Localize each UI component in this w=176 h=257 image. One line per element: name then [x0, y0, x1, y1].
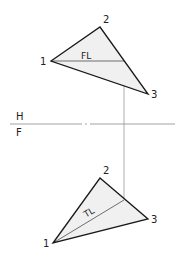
folding-line-h-label: H — [16, 112, 24, 122]
front-vertex-3-label: 3 — [151, 215, 157, 225]
top-vertex-2-label: 2 — [103, 15, 109, 25]
top-view-triangle — [51, 27, 148, 94]
front-vertex-1-label: 1 — [43, 239, 49, 249]
top-vertex-1-label: 1 — [40, 57, 46, 67]
top-vertex-3-label: 3 — [151, 90, 157, 100]
front-view-triangle — [53, 178, 148, 243]
folding-line-f-label: F — [16, 128, 22, 138]
frontal-line-label: FL — [81, 51, 91, 61]
front-vertex-2-label: 2 — [103, 166, 109, 176]
